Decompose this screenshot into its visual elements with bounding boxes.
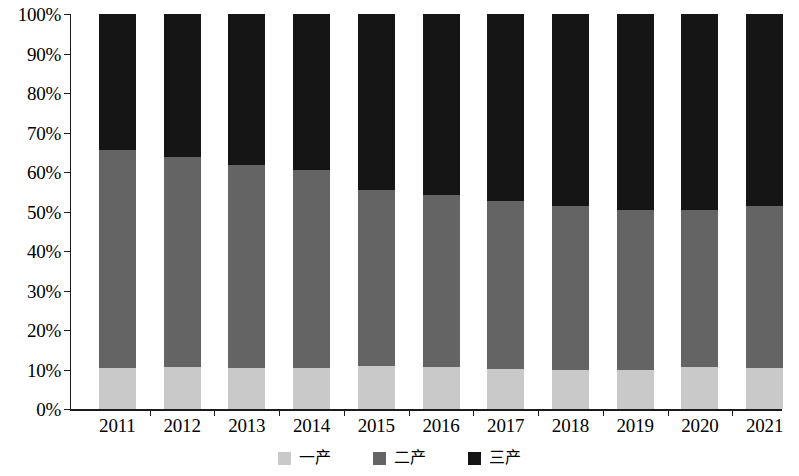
y-axis-tick-label: 60%: [27, 163, 61, 182]
bar-segment[interactable]: [164, 157, 201, 367]
bar-segment[interactable]: [681, 367, 718, 409]
y-axis-tick-label: 30%: [27, 281, 61, 300]
bar-segment[interactable]: [423, 367, 460, 409]
bar-segment[interactable]: [487, 14, 524, 201]
x-axis-line: [70, 409, 782, 411]
x-axis-tick-label: 2014: [293, 416, 330, 437]
y-axis-tick: [64, 172, 71, 173]
x-axis-tick: [538, 409, 539, 416]
bar-group[interactable]: [552, 14, 589, 409]
bar-group[interactable]: [99, 14, 136, 409]
y-axis-tick: [64, 54, 71, 55]
bar-group[interactable]: [617, 14, 654, 409]
bar-segment[interactable]: [746, 14, 783, 206]
x-axis-tick-label: 2013: [228, 416, 265, 437]
bar-segment[interactable]: [99, 14, 136, 150]
y-axis-tick-label: 40%: [27, 242, 61, 261]
x-axis-tick: [732, 409, 733, 416]
y-axis-tick-label: 70%: [27, 123, 61, 142]
y-axis-tick-label: 20%: [27, 321, 61, 340]
legend-label: 二产: [394, 450, 426, 466]
bar-group[interactable]: [746, 14, 783, 409]
bar-segment[interactable]: [164, 14, 201, 157]
legend-item[interactable]: 二产: [373, 450, 426, 466]
y-axis-tick: [64, 291, 71, 292]
legend-swatch-icon: [373, 452, 386, 465]
legend-item[interactable]: 三产: [468, 450, 521, 466]
x-axis-tick: [603, 409, 604, 416]
bar-group[interactable]: [423, 14, 460, 409]
bar-segment[interactable]: [358, 366, 395, 409]
y-axis-tick: [64, 133, 71, 134]
bar-segment[interactable]: [293, 14, 330, 170]
bar-segment[interactable]: [487, 369, 524, 409]
x-axis-tick-label: 2011: [99, 416, 136, 437]
x-axis-tick: [473, 409, 474, 416]
x-axis-tick-label: 2020: [681, 416, 718, 437]
y-axis-tick-label: 80%: [27, 84, 61, 103]
bar-segment[interactable]: [358, 190, 395, 367]
x-axis-tick-label: 2017: [487, 416, 524, 437]
y-axis-tick-label: 90%: [27, 44, 61, 63]
bar-segment[interactable]: [99, 150, 136, 368]
bar-segment[interactable]: [228, 14, 265, 165]
y-axis-tick: [64, 409, 71, 410]
y-axis-tick: [64, 14, 71, 15]
bar-segment[interactable]: [293, 170, 330, 368]
legend-item[interactable]: 一产: [278, 450, 331, 466]
x-axis-tick-label: 2016: [422, 416, 459, 437]
x-axis-tick-label: 2012: [163, 416, 200, 437]
bar-segment[interactable]: [746, 368, 783, 409]
legend-label: 三产: [489, 450, 521, 466]
bar-segment[interactable]: [358, 14, 395, 190]
bar-group[interactable]: [681, 14, 718, 409]
y-axis-tick: [64, 330, 71, 331]
stacked-bar-chart: 0%10%20%30%40%50%60%70%80%90%100% 201120…: [0, 0, 799, 476]
x-axis-tick-label: 2019: [617, 416, 654, 437]
x-axis-labels: 2011201220132014201520162017201820192020…: [70, 416, 782, 442]
x-axis-tick-label: 2021: [746, 416, 783, 437]
legend-label: 一产: [299, 450, 331, 466]
bar-segment[interactable]: [99, 368, 136, 409]
bar-segment[interactable]: [552, 370, 589, 410]
y-axis-tick: [64, 93, 71, 94]
y-axis-tick-label: 10%: [27, 360, 61, 379]
x-axis-tick: [668, 409, 669, 416]
bar-segment[interactable]: [228, 368, 265, 409]
bar-group[interactable]: [358, 14, 395, 409]
x-axis-tick: [409, 409, 410, 416]
bar-segment[interactable]: [423, 14, 460, 195]
y-axis-tick-label: 100%: [18, 5, 61, 24]
bar-group[interactable]: [164, 14, 201, 409]
x-axis-tick: [214, 409, 215, 416]
y-axis-tick: [64, 212, 71, 213]
bar-segment[interactable]: [617, 14, 654, 210]
bar-group[interactable]: [228, 14, 265, 409]
legend-swatch-icon: [278, 452, 291, 465]
y-axis-tick-label: 50%: [27, 202, 61, 221]
x-axis-tick: [344, 409, 345, 416]
bar-segment[interactable]: [487, 201, 524, 369]
x-axis-tick-label: 2018: [552, 416, 589, 437]
bar-segment[interactable]: [617, 210, 654, 370]
bar-segment[interactable]: [681, 210, 718, 368]
bar-segment[interactable]: [746, 206, 783, 368]
x-axis-tick-label: 2015: [358, 416, 395, 437]
chart-legend: 一产二产三产: [0, 450, 799, 466]
bar-segment[interactable]: [681, 14, 718, 210]
bar-segment[interactable]: [164, 367, 201, 409]
bar-segment[interactable]: [552, 14, 589, 206]
bar-group[interactable]: [487, 14, 524, 409]
y-axis-tick: [64, 251, 71, 252]
x-axis-tick: [279, 409, 280, 416]
bar-segment[interactable]: [228, 165, 265, 368]
bar-segment[interactable]: [617, 370, 654, 409]
y-axis-tick: [64, 370, 71, 371]
legend-swatch-icon: [468, 452, 481, 465]
bar-group[interactable]: [293, 14, 330, 409]
y-axis-tick-label: 0%: [36, 400, 61, 419]
bar-segment[interactable]: [293, 368, 330, 409]
bar-segment[interactable]: [423, 195, 460, 367]
bar-segment[interactable]: [552, 206, 589, 370]
plot-area: 0%10%20%30%40%50%60%70%80%90%100%: [70, 14, 782, 409]
